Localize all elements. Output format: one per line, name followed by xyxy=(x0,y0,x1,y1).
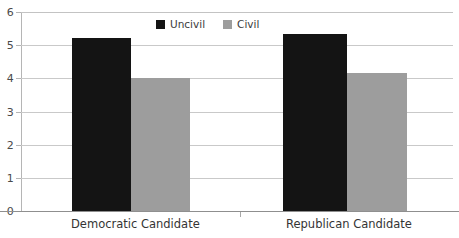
x-axis-category-tick xyxy=(240,212,241,217)
chart-legend: Uncivil Civil xyxy=(156,19,259,30)
y-axis-labels: 6 5 4 3 2 1 0 xyxy=(0,0,14,238)
y-tick-label-5: 5 xyxy=(0,40,14,51)
legend-label-civil: Civil xyxy=(237,19,259,30)
legend-label-uncivil: Uncivil xyxy=(170,19,205,30)
y-tick-label-3: 3 xyxy=(0,106,14,117)
bar-chart: 6 5 4 3 2 1 0 Uncivil xyxy=(0,0,459,238)
x-axis-label-democratic: Democratic Candidate xyxy=(71,219,191,231)
bar-democratic-civil xyxy=(131,78,190,211)
legend-item-civil: Civil xyxy=(223,19,259,30)
bar-democratic-uncivil xyxy=(72,38,131,211)
x-axis-line xyxy=(0,211,459,212)
plot-area xyxy=(21,12,453,211)
y-tick-label-1: 1 xyxy=(0,172,14,183)
gridline-6 xyxy=(21,12,453,13)
y-tick-label-6: 6 xyxy=(0,7,14,18)
legend-item-uncivil: Uncivil xyxy=(156,19,205,30)
y-tick-label-2: 2 xyxy=(0,139,14,150)
black-square-swatch-icon xyxy=(156,20,165,29)
y-tick-label-4: 4 xyxy=(0,73,14,84)
gray-square-swatch-icon xyxy=(223,20,232,29)
bar-republican-civil xyxy=(347,73,407,211)
bar-republican-uncivil xyxy=(283,34,347,211)
x-axis-label-republican: Republican Candidate xyxy=(286,219,406,231)
